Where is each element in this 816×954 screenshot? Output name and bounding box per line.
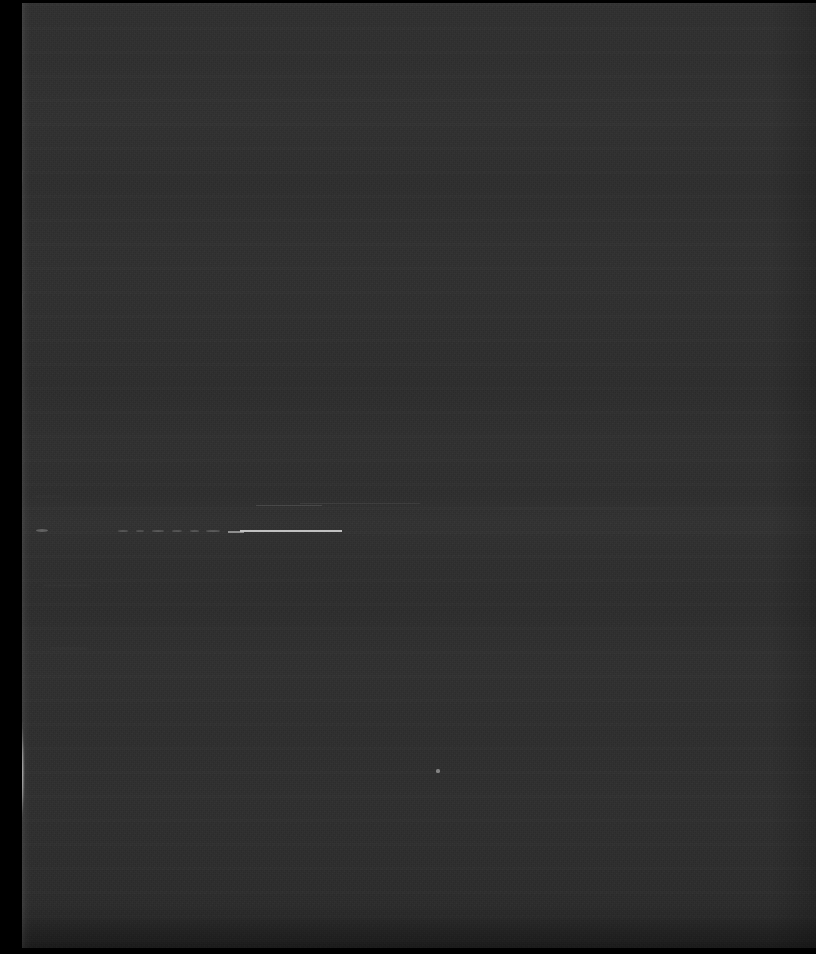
scratch-left-c	[34, 496, 62, 497]
scan-viewport	[0, 0, 816, 954]
film-grain-overlay	[22, 3, 816, 948]
scratch-right-a	[500, 508, 660, 509]
dash-6	[206, 530, 220, 532]
speck-mid-lower	[436, 769, 440, 773]
dash-5	[190, 530, 199, 532]
scratch-left-b	[50, 648, 88, 649]
dash-edge-left	[36, 529, 48, 532]
scratch-left-a	[44, 585, 90, 586]
faint-rule-upper	[256, 505, 322, 506]
bright-stroke-left	[228, 531, 244, 533]
dash-2	[136, 530, 144, 532]
black-top-border	[0, 0, 816, 3]
dash-4	[172, 530, 182, 532]
scan-banding-overlay	[22, 3, 816, 948]
torn-page-edge	[22, 3, 35, 948]
page-surface	[22, 3, 816, 948]
dash-1	[118, 530, 128, 532]
black-left-margin	[0, 0, 22, 954]
faint-rule-upper2	[300, 503, 420, 504]
dash-3	[152, 530, 164, 532]
bright-stroke-main	[240, 530, 342, 532]
